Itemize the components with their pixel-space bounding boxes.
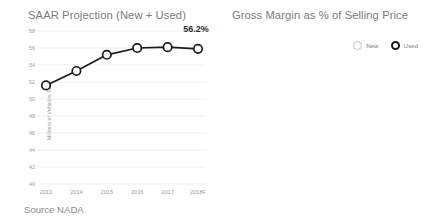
y-axis-tick-label: 50 [29,96,35,102]
y-axis-tick-label: 40 [29,181,35,187]
x-axis-tick-label: 2016 [131,189,143,195]
legend-marker-used-icon [391,41,400,50]
y-axis-tick-label: 46 [29,130,35,136]
y-axis-tick-label: 44 [29,147,35,153]
data-point[interactable] [163,43,171,51]
legend-marker-new-icon [353,41,362,50]
y-axis-tick-label: 56 [29,45,35,51]
data-point[interactable] [42,81,50,89]
gross-margin-chart-title: Gross Margin as % of Selling Price [213,9,427,21]
data-point[interactable] [133,44,141,52]
gross-margin-legend: New Used [353,41,418,50]
data-point[interactable] [72,67,80,75]
saar-plot-area: 4042444648505254565820132014201520162017… [38,31,206,184]
saar-chart-title: SAAR Projection (New + Used) [0,9,214,21]
data-point[interactable] [103,51,111,59]
series-saar-new-used- [42,43,202,90]
legend-label-new: New [366,42,378,49]
chart-pair-figure: SAAR Projection (New + Used) Millions of… [0,0,427,221]
x-axis-tick-label: 2017 [161,189,173,195]
x-axis-tick-label: 2015 [101,189,113,195]
y-axis-tick-label: 52 [29,79,35,85]
legend-label-used: Used [404,42,418,49]
x-axis-tick-label: 2013 [40,189,52,195]
data-point-label: 56.2% [183,24,209,34]
x-axis-tick-label: 2014 [70,189,82,195]
saar-projection-panel: SAAR Projection (New + Used) Millions of… [0,0,214,221]
y-axis-tick-label: 48 [29,113,35,119]
saar-line-chart-svg [38,31,206,184]
x-axis-tick-label: 2018F [190,189,206,195]
legend-item-new[interactable]: New [353,41,378,50]
y-axis-tick-label: 42 [29,164,35,170]
source-note: Source NADA [24,204,84,215]
gross-margin-panel: Gross Margin as % of Selling Price New U… [213,0,427,221]
series-line [46,47,198,85]
y-axis-tick-label: 58 [29,28,35,34]
data-point[interactable] [194,45,202,53]
legend-item-used[interactable]: Used [391,41,418,50]
y-axis-tick-label: 54 [29,62,35,68]
